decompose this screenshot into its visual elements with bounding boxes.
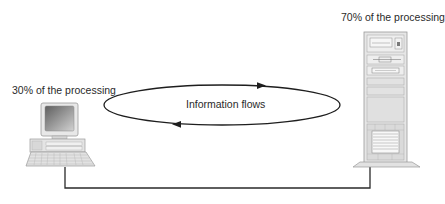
- server-tower-icon: [353, 32, 420, 167]
- arrow-right-icon: [257, 82, 266, 89]
- network-cable: [65, 166, 370, 188]
- information-flows-label: Information flows: [186, 99, 265, 110]
- server-processing-label: 70% of the processing: [341, 12, 445, 23]
- arrow-left-icon: [172, 121, 181, 128]
- client-processing-label: 30% of the processing: [12, 85, 116, 96]
- desktop-computer-icon: [26, 103, 95, 166]
